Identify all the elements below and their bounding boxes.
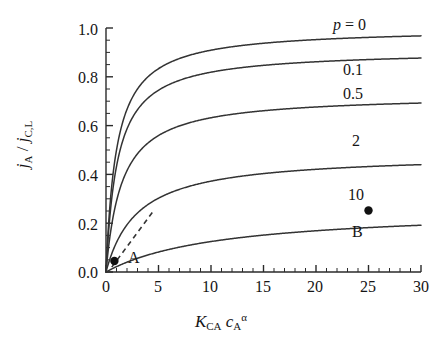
curve-p-2 [106, 165, 421, 272]
curve-label-0.5: 0.5 [343, 86, 363, 102]
y-axis-title: jA / jC,L [14, 75, 33, 215]
curve-p-0.5 [106, 103, 421, 272]
y-tick-label-1.0: 1.0 [52, 22, 98, 38]
curve-label-0.1: 0.1 [343, 62, 363, 78]
curve-label-2: 2 [352, 133, 360, 149]
x-tick-label-5: 5 [138, 279, 178, 295]
x-axis-title-K: K [195, 312, 206, 331]
curve-label-p-symbol: p [333, 16, 341, 33]
curve-p-0.1 [106, 58, 421, 272]
x-tick-label-10: 10 [190, 279, 230, 295]
x-tick-label-30: 30 [401, 279, 441, 295]
y-axis-title-j2-subscript: C,L [22, 121, 34, 138]
data-curves [106, 36, 421, 272]
y-tick-label-0.4: 0.4 [52, 168, 98, 184]
x-axis-title-c-superscript: α [241, 311, 247, 323]
y-tick-label-0.8: 0.8 [52, 70, 98, 86]
curve-label-p-value: = 0 [345, 16, 366, 33]
y-axis-title-j1-subscript: A [22, 156, 34, 164]
x-axis-title: KCA cAα [0, 312, 442, 332]
marker-point-B [364, 206, 372, 214]
x-tick-label-0: 0 [86, 279, 126, 295]
x-tick-label-20: 20 [295, 279, 335, 295]
marker-label-B: B [352, 224, 363, 240]
curve-p-0 [106, 36, 421, 272]
marker-point-A [110, 257, 118, 265]
curve-p-10 [106, 225, 421, 272]
curve-label-10: 10 [348, 187, 364, 203]
y-tick-label-0.6: 0.6 [52, 119, 98, 135]
x-axis-major-ticks [106, 265, 421, 272]
y-tick-label-0.2: 0.2 [52, 217, 98, 233]
x-axis-title-K-subscript: CA [206, 320, 221, 332]
figure-chart-current-density-vs-concentration: 1.0 0.8 0.6 0.4 0.2 0.0 0 5 10 15 20 25 … [0, 0, 442, 349]
x-tick-label-15: 15 [243, 279, 283, 295]
marker-label-A: A [128, 250, 140, 266]
y-axis-title-slash: / [13, 147, 32, 152]
x-tick-label-25: 25 [348, 279, 388, 295]
y-axis-title-j2: j [13, 138, 32, 143]
curve-label-p-0: p = 0 [333, 17, 366, 33]
y-axis-title-j1: j [13, 164, 32, 169]
